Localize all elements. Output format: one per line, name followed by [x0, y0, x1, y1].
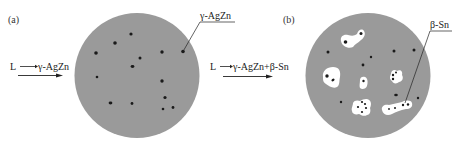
panel-b-reaction-from: L [210, 61, 216, 72]
particle-icon [393, 50, 396, 53]
particle-icon [392, 78, 394, 80]
particle-icon [139, 57, 142, 60]
particle-icon [129, 32, 132, 35]
particle-icon [131, 102, 134, 105]
particle-icon [413, 49, 416, 52]
panel-b-reaction-to: γ-AgZn+β-Sn [232, 61, 289, 72]
particle-icon [344, 40, 348, 44]
particle-icon [162, 108, 165, 111]
particle-icon [370, 56, 372, 58]
panel-b-phase-callout: β-Sn [430, 19, 449, 30]
particle-icon [357, 106, 359, 108]
particle-icon [407, 103, 409, 105]
particle-icon [388, 108, 390, 110]
particle-icon [113, 41, 117, 45]
liquid-matrix-a [75, 13, 200, 138]
particle-icon [361, 101, 363, 103]
panel-b-label: (b) [283, 14, 295, 26]
process-arrowhead-b [266, 75, 273, 79]
particle-icon [362, 80, 364, 82]
panel-a-reaction-to: γ-AgZn [37, 61, 69, 72]
panel-a-phase-callout: γ-AgZn [199, 10, 231, 21]
particle-icon [160, 50, 163, 53]
particle-icon [360, 32, 363, 35]
particle-icon [96, 76, 99, 79]
particle-icon [362, 64, 365, 67]
panel-b: (b) L γ-AgZn+β-Sn [210, 13, 452, 138]
particle-icon [365, 107, 367, 109]
particle-icon [394, 107, 396, 109]
particle-icon [327, 51, 330, 54]
panel-a-reaction-from: L [10, 61, 16, 72]
particle-icon [394, 94, 398, 97]
particle-icon [109, 102, 113, 105]
particle-icon [160, 79, 163, 82]
particle-icon [94, 51, 98, 55]
particle-icon [392, 74, 394, 76]
particle-icon [163, 96, 166, 99]
particle-icon [417, 97, 419, 99]
solidification-diagram: (a) L γ-AgZn γ-AgZn [0, 0, 462, 145]
panel-a: (a) L γ-AgZn γ-AgZn [8, 10, 235, 138]
process-arrowhead-a [56, 74, 63, 78]
particle-icon [325, 74, 328, 77]
particle-icon [340, 101, 342, 103]
panel-a-label: (a) [8, 14, 19, 26]
particle-icon [395, 72, 397, 74]
particle-icon [364, 103, 366, 105]
particle-icon [172, 106, 175, 109]
particle-icon [361, 111, 363, 113]
particle-icon [131, 65, 135, 68]
particle-icon [402, 104, 404, 106]
